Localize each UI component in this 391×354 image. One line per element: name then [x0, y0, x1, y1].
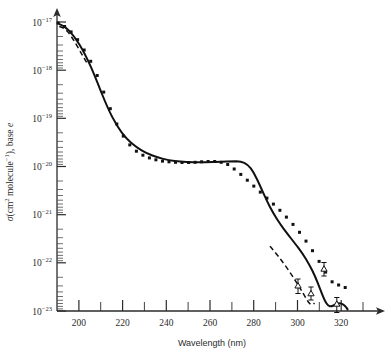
- data-point: [308, 290, 314, 295]
- data-point: [285, 216, 288, 219]
- data-point: [161, 160, 164, 163]
- data-point: [174, 161, 177, 164]
- data-point: [311, 249, 314, 252]
- data-point: [122, 135, 125, 138]
- chart-figure: 10−17 10−18 10−19 10−20 10−21 10−22 10−2…: [0, 0, 391, 354]
- y-axis-title: σ(cm2 molecule−1), base e: [3, 123, 16, 221]
- data-point: [168, 160, 171, 163]
- x-tick-label: 200: [72, 318, 87, 328]
- solid-curve: [59, 24, 348, 310]
- data-point: [233, 168, 236, 171]
- data-point: [128, 143, 131, 146]
- y-tick-label: 10−20: [32, 160, 53, 172]
- data-point: [246, 179, 249, 182]
- x-axis-title: Wavelength (nm): [178, 338, 246, 348]
- y-ticks: [57, 22, 66, 311]
- y-tick-label: 10−21: [32, 208, 52, 220]
- chart-svg: 10−17 10−18 10−19 10−20 10−21 10−22 10−2…: [0, 0, 391, 354]
- y-tick-label: 10−23: [32, 305, 53, 317]
- x-tick-label: 220: [115, 318, 130, 328]
- y-tick-label: 10−18: [32, 64, 53, 76]
- dashed-curve-left-branch: [59, 27, 86, 63]
- data-point: [200, 160, 203, 163]
- data-point: [181, 161, 184, 164]
- x-tick-label: 280: [247, 318, 262, 328]
- data-point: [337, 284, 340, 287]
- data-point: [89, 60, 92, 63]
- data-point: [76, 38, 79, 41]
- x-tick-labels: 200 220 240 260 280 300 320: [72, 318, 349, 328]
- x-axis-group: [57, 307, 385, 315]
- data-point: [331, 280, 334, 283]
- plot-area: [57, 22, 348, 313]
- y-tick-label: 10−22: [32, 256, 52, 268]
- data-point: [115, 123, 118, 126]
- x-ticks: [79, 300, 363, 311]
- x-tick-label: 260: [203, 318, 218, 328]
- data-point: [141, 154, 144, 157]
- x-tick-label: 300: [290, 318, 305, 328]
- data-point: [154, 158, 157, 161]
- y-tick-label: 10−19: [32, 112, 53, 124]
- data-point: [295, 283, 301, 288]
- data-point: [278, 209, 281, 212]
- data-point: [298, 231, 301, 234]
- data-point: [226, 163, 229, 166]
- data-point: [252, 185, 255, 188]
- x-tick-label: 320: [334, 318, 349, 328]
- data-point: [213, 160, 216, 163]
- x-tick-label: 240: [159, 318, 174, 328]
- data-point: [63, 25, 66, 28]
- data-point: [207, 160, 210, 163]
- data-point: [321, 266, 327, 271]
- data-point: [344, 286, 347, 289]
- data-point: [70, 30, 73, 33]
- y-tick-labels: 10−17 10−18 10−19 10−20 10−21 10−22 10−2…: [32, 16, 53, 317]
- data-point: [272, 203, 275, 206]
- solid-curve-markers: [57, 22, 347, 290]
- data-point: [318, 260, 321, 263]
- data-point: [265, 197, 268, 200]
- y-axis-group: [53, 8, 61, 311]
- y-tick-label: 10−17: [32, 16, 53, 28]
- data-point: [259, 191, 262, 194]
- svg-text:σ(cm2 molecule−1), base e: σ(cm2 molecule−1), base e: [3, 123, 16, 221]
- data-point: [83, 49, 86, 52]
- data-point: [187, 161, 190, 164]
- data-point: [102, 91, 105, 94]
- data-point: [96, 74, 99, 77]
- data-point: [305, 240, 308, 243]
- data-point: [109, 107, 112, 110]
- data-point: [239, 173, 242, 176]
- data-point: [194, 161, 197, 164]
- data-point: [292, 223, 295, 226]
- data-point: [135, 150, 138, 153]
- data-point: [57, 22, 60, 25]
- data-point: [220, 161, 223, 164]
- data-point: [148, 156, 151, 159]
